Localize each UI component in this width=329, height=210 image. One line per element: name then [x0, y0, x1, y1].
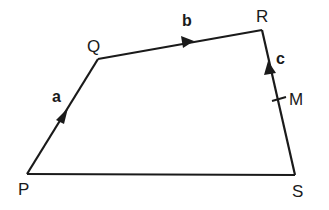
midpoint-label-m: M: [289, 91, 303, 108]
vertex-label-p: P: [18, 181, 29, 198]
quadrilateral-diagram: P Q R S M a b c: [0, 0, 329, 210]
vector-label-b: b: [182, 13, 192, 29]
edge-qr: [98, 30, 262, 59]
diagram-canvas: [0, 0, 329, 210]
edge-ps: [27, 174, 295, 175]
vertex-label-q: Q: [87, 38, 100, 55]
arrow-icon-vector-a: [56, 108, 68, 124]
vector-label-c: c: [276, 51, 285, 67]
arrow-icon-vector-b: [181, 36, 194, 48]
vertex-label-r: R: [256, 8, 268, 25]
vertex-label-s: S: [292, 183, 303, 200]
vector-label-a: a: [52, 89, 61, 105]
